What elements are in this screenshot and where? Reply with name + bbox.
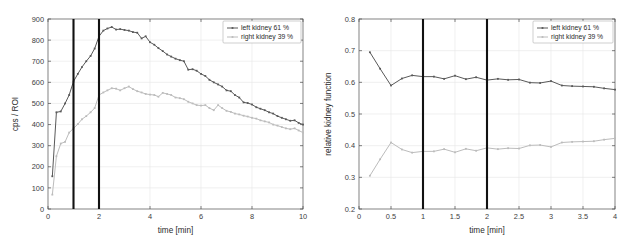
series-marker bbox=[90, 111, 92, 113]
series-marker bbox=[183, 98, 185, 100]
series-marker bbox=[238, 114, 240, 116]
series-marker bbox=[497, 78, 499, 80]
series-marker bbox=[170, 94, 172, 96]
series-marker bbox=[234, 113, 236, 115]
x-axis-title: time [min] bbox=[158, 226, 194, 235]
legend-label: right kidney 39 % bbox=[551, 33, 603, 41]
series-marker bbox=[213, 81, 215, 83]
series-marker bbox=[204, 75, 206, 77]
series-marker bbox=[64, 103, 66, 105]
series-marker bbox=[192, 103, 194, 105]
series-marker bbox=[238, 97, 240, 99]
series-marker bbox=[302, 132, 304, 134]
series-marker bbox=[187, 69, 189, 71]
series-marker bbox=[390, 142, 392, 144]
series-marker bbox=[162, 92, 164, 94]
series-marker bbox=[234, 94, 236, 96]
series-marker bbox=[561, 85, 563, 87]
y-axis-title: cps / ROI bbox=[11, 97, 20, 131]
series-marker bbox=[85, 115, 87, 117]
series-marker bbox=[401, 149, 403, 151]
series-marker bbox=[294, 127, 296, 129]
x-tick-label: 0 bbox=[46, 212, 50, 221]
legend-marker bbox=[542, 27, 544, 29]
series-marker bbox=[379, 68, 381, 70]
series-marker bbox=[158, 96, 160, 98]
series-marker bbox=[200, 105, 202, 107]
series-marker bbox=[209, 79, 211, 81]
series-marker bbox=[132, 88, 134, 90]
series-marker bbox=[289, 128, 291, 130]
series-marker bbox=[209, 107, 211, 109]
y-tick-label: 0.6 bbox=[345, 78, 355, 87]
series-marker bbox=[68, 132, 70, 134]
series-marker bbox=[102, 30, 104, 32]
x-tick-label: 4 bbox=[148, 212, 152, 221]
series-marker bbox=[507, 79, 509, 81]
series-marker bbox=[285, 118, 287, 120]
x-tick-label: 3 bbox=[549, 212, 553, 221]
series-marker bbox=[141, 92, 143, 94]
series-marker bbox=[255, 118, 257, 120]
series-marker bbox=[119, 89, 121, 91]
series-marker bbox=[255, 106, 257, 108]
series-marker bbox=[593, 140, 595, 142]
panel-relative-function: 0.20.30.40.50.60.70.800.511.522.533.54ti… bbox=[315, 0, 630, 244]
x-tick-label: 0.5 bbox=[386, 212, 396, 221]
series-marker bbox=[56, 155, 58, 157]
series-marker bbox=[518, 79, 520, 81]
y-tick-label: 400 bbox=[32, 120, 44, 129]
series-marker bbox=[221, 86, 223, 88]
series-marker bbox=[170, 56, 172, 58]
series-marker bbox=[81, 118, 83, 120]
series-marker bbox=[94, 48, 96, 50]
series-marker bbox=[153, 94, 155, 96]
x-tick-label: 6 bbox=[199, 212, 203, 221]
series-marker bbox=[251, 117, 253, 119]
series-marker bbox=[162, 50, 164, 52]
series-marker bbox=[497, 148, 499, 150]
series-marker bbox=[166, 54, 168, 56]
renogram-chart: 01002003004005006007008009000246810time … bbox=[0, 0, 315, 244]
series-marker bbox=[132, 31, 134, 33]
legend-label: right kidney 39 % bbox=[241, 33, 293, 41]
x-tick-label: 2 bbox=[97, 212, 101, 221]
series-marker bbox=[60, 143, 62, 145]
series-marker bbox=[251, 104, 253, 106]
series-marker bbox=[550, 80, 552, 82]
series-marker bbox=[149, 94, 151, 96]
series-marker bbox=[115, 88, 117, 90]
series-marker bbox=[529, 144, 531, 146]
series-marker bbox=[51, 194, 53, 196]
series-marker bbox=[614, 137, 616, 139]
series-marker bbox=[175, 97, 177, 99]
series-marker bbox=[187, 101, 189, 103]
series-marker bbox=[475, 76, 477, 78]
series-marker bbox=[81, 66, 83, 68]
series-marker bbox=[561, 142, 563, 144]
series-marker bbox=[107, 28, 109, 30]
legend-marker bbox=[232, 36, 234, 38]
legend[interactable]: left kidney 61 %right kidney 39 % bbox=[223, 21, 301, 43]
series-marker bbox=[539, 82, 541, 84]
series-marker bbox=[264, 109, 266, 111]
y-tick-label: 200 bbox=[32, 162, 44, 171]
y-tick-label: 300 bbox=[32, 141, 44, 150]
legend[interactable]: left kidney 61 %right kidney 39 % bbox=[533, 21, 613, 43]
series-marker bbox=[213, 109, 215, 111]
series-marker bbox=[90, 55, 92, 57]
series-marker bbox=[285, 127, 287, 129]
series-marker bbox=[277, 115, 279, 117]
series-marker bbox=[529, 82, 531, 84]
series-marker bbox=[475, 150, 477, 152]
y-tick-label: 0.3 bbox=[345, 173, 355, 182]
series-line-left-kidney bbox=[370, 52, 615, 89]
series-marker bbox=[454, 75, 456, 77]
series-marker bbox=[571, 141, 573, 143]
series-marker bbox=[51, 175, 53, 177]
series-marker bbox=[200, 73, 202, 75]
x-tick-label: 2 bbox=[485, 212, 489, 221]
series-marker bbox=[411, 74, 413, 76]
series-line-left-kidney bbox=[52, 27, 303, 176]
x-tick-label: 8 bbox=[250, 212, 254, 221]
